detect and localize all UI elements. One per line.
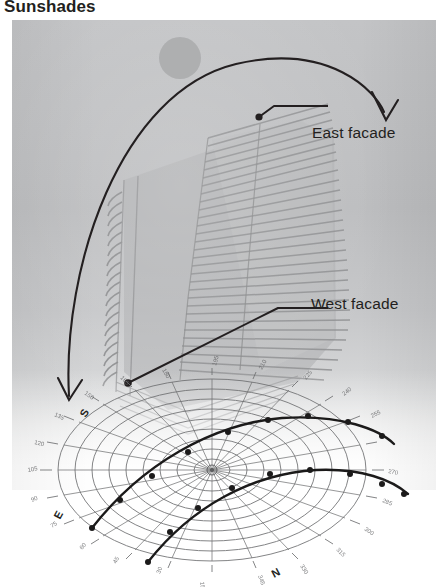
svg-text:60: 60 (78, 541, 87, 550)
svg-text:90: 90 (30, 495, 39, 503)
compass-label-n: N (269, 565, 282, 579)
svg-text:15: 15 (199, 581, 206, 587)
west-facade-louvers (103, 192, 122, 386)
east-facade-label: East facade (312, 124, 396, 142)
svg-text:330: 330 (299, 563, 310, 575)
svg-text:315: 315 (335, 547, 347, 559)
model-photograph (12, 20, 436, 490)
svg-text:285: 285 (382, 497, 394, 507)
tower-model-graphic (12, 20, 436, 490)
svg-text:75: 75 (49, 520, 58, 529)
figure-root: Sunshades (0, 0, 448, 587)
svg-text:345: 345 (257, 574, 266, 586)
svg-text:30: 30 (155, 565, 163, 574)
figure-title: Sunshades (4, 0, 96, 17)
compass-label-e: E (51, 509, 65, 521)
svg-text:45: 45 (112, 555, 121, 564)
svg-text:300: 300 (363, 526, 375, 537)
west-facade-label: West facade (311, 295, 399, 313)
